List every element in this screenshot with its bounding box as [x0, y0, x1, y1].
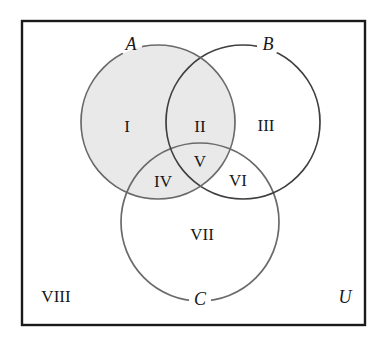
region-label-iv: IV	[154, 172, 173, 191]
region-label-ii: II	[194, 117, 206, 136]
venn-diagram-page: A B C I II III IV V VI VII VIII U	[0, 0, 390, 350]
region-label-v: V	[194, 152, 207, 171]
region-label-vi: VI	[229, 171, 247, 190]
region-label-viii: VIII	[41, 287, 71, 306]
venn-diagram-canvas: A B C I II III IV V VI VII VIII U	[0, 0, 390, 350]
region-label-i: I	[124, 117, 130, 136]
region-label-iii: III	[258, 116, 275, 135]
set-label-c: C	[194, 289, 207, 309]
set-label-b: B	[263, 34, 274, 54]
set-label-a: A	[125, 34, 138, 54]
universe-label: U	[339, 287, 353, 307]
region-label-vii: VII	[190, 225, 214, 244]
